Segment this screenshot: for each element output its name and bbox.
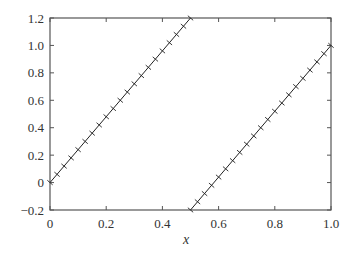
y-tick-label: 0 xyxy=(38,175,45,190)
y-axis-ticks: −0.200.20.40.60.81.01.2 xyxy=(20,11,331,218)
x-tick-label: 0.4 xyxy=(154,216,171,231)
line-chart: 00.20.40.60.81.0 −0.200.20.40.60.81.01.2… xyxy=(0,0,354,255)
y-tick-label: 0.2 xyxy=(28,148,44,163)
x-tick-label: 1.0 xyxy=(323,216,339,231)
y-tick-label: 0.6 xyxy=(28,93,45,108)
y-tick-label: 1.2 xyxy=(28,11,44,26)
series-segment-2 xyxy=(188,43,334,212)
x-tick-label: 0 xyxy=(47,216,54,231)
data-series xyxy=(47,16,333,213)
x-tick-label: 0.6 xyxy=(210,216,227,231)
y-tick-label: 1.0 xyxy=(28,38,44,53)
x-axis-ticks: 00.20.40.60.81.0 xyxy=(47,18,339,231)
plot-border xyxy=(50,18,331,210)
plot-frame xyxy=(50,18,331,210)
series-segment-1 xyxy=(47,16,193,185)
x-tick-label: 0.8 xyxy=(267,216,283,231)
x-axis-label: x xyxy=(182,232,190,247)
x-tick-label: 0.2 xyxy=(98,216,114,231)
y-tick-label: −0.2 xyxy=(20,203,44,218)
y-tick-label: 0.8 xyxy=(28,65,44,80)
y-tick-label: 0.4 xyxy=(28,120,45,135)
